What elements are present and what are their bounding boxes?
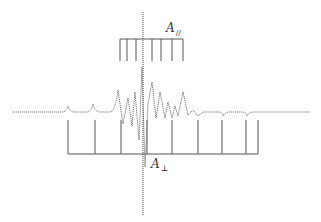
epr-stick-diagram: A// A⊥ <box>0 0 321 222</box>
a-parallel-symbol: A <box>166 21 175 35</box>
a-perp-label: A⊥ <box>151 158 168 173</box>
spectrum-trace <box>12 67 310 167</box>
a-perp-symbol: A <box>151 157 160 171</box>
a-parallel-subscript: // <box>176 28 181 37</box>
a-parallel-comb <box>120 39 183 61</box>
a-parallel-label: A// <box>166 22 181 37</box>
a-perp-subscript: ⊥ <box>161 164 169 173</box>
a-perp-comb <box>68 120 258 154</box>
diagram-canvas <box>0 0 321 222</box>
